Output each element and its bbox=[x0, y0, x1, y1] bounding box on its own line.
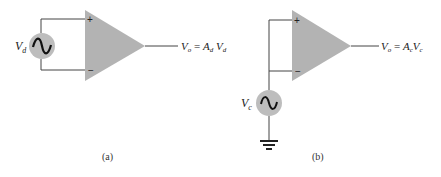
diagram-canvas: + − Vd Vo = Ad Vd (a) + − Vc bbox=[0, 0, 441, 177]
op-amp-b bbox=[292, 10, 351, 81]
output-equation-b: Vo = AcVc bbox=[381, 40, 424, 54]
op-amp-a bbox=[85, 10, 145, 81]
diagram-b: + − Vc Vo = AcVc (b) bbox=[241, 10, 424, 163]
diagram-a: + − Vd Vo = Ad Vd (a) bbox=[15, 10, 227, 163]
ac-source-icon-b bbox=[256, 90, 282, 116]
minus-sign-b: − bbox=[295, 66, 301, 77]
plus-sign-b: + bbox=[294, 15, 300, 26]
output-equation-a: Vo = Ad Vd bbox=[181, 40, 227, 54]
source-label-b: Vc bbox=[241, 96, 252, 112]
source-label-a: Vd bbox=[15, 39, 27, 55]
ground-icon bbox=[260, 141, 278, 149]
minus-sign-a: − bbox=[88, 65, 94, 76]
wire-a-top bbox=[41, 19, 86, 33]
plus-sign-a: + bbox=[87, 14, 93, 25]
caption-a: (a) bbox=[102, 151, 113, 163]
wire-a-bottom bbox=[41, 59, 86, 70]
ac-source-icon-a bbox=[29, 33, 55, 59]
caption-b: (b) bbox=[312, 151, 324, 163]
wire-b-top bbox=[269, 20, 293, 90]
